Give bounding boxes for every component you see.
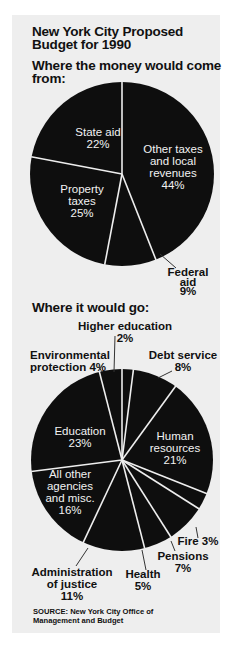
label-text: Fire 3% [176,535,220,547]
label-value: 44% [133,179,213,191]
source-line-2: Management and Budget [33,616,153,625]
label-state-aid: State aid 22% [63,126,133,150]
label-text: Health [122,568,164,580]
label-value: 22% [63,138,133,150]
label-text: Education [45,425,115,437]
source-line-1: SOURCE: New York City Office of [33,607,153,616]
label-text: and misc. [36,492,104,504]
label-text: Human [141,430,209,442]
label-text: State aid [63,126,133,138]
label-environmental-protection: Environmental protection 4% [30,349,116,373]
label-text: and local [133,155,213,167]
label-value: protection 4% [30,361,116,373]
label-all-other: All other agencies and misc. 16% [36,468,104,516]
spending-heading: Where it would go: [32,301,149,314]
label-value: 25% [52,207,112,219]
label-text: of justice [30,578,114,590]
source-note: SOURCE: New York City Office of Manageme… [33,607,153,625]
label-property-taxes: Property taxes 25% [52,183,112,219]
label-administration-of-justice: Administration of justice 11% [30,566,114,602]
label-debt-service: Debt service 8% [147,349,219,373]
label-text: All other [36,468,104,480]
chart-title: New York City Proposed Budget for 1990 [32,25,183,51]
label-text: taxes [52,195,112,207]
label-value: 11% [30,590,114,602]
label-text: Higher education [70,320,180,332]
label-human-resources: Human resources 21% [141,430,209,466]
income-heading-line-2: from: [32,72,221,85]
title-line-2: Budget for 1990 [32,38,183,51]
label-text: Other taxes [133,143,213,155]
leader-line [76,548,88,566]
label-higher-education: Higher education 2% [70,320,180,344]
label-value: 16% [36,504,104,516]
label-text: Pensions [155,550,211,562]
label-value: 2% [70,332,180,344]
leader-line [142,550,146,570]
label-text: Environmental [30,349,116,361]
label-education: Education 23% [45,425,115,449]
label-value: 8% [147,361,219,373]
label-fire: Fire 3% [176,535,220,547]
label-text: agencies [36,480,104,492]
label-text: Administration [30,566,114,578]
label-value: 9% [166,285,210,297]
label-text: revenues [133,167,213,179]
label-text: Debt service [147,349,219,361]
label-value: 23% [45,437,115,449]
label-value: 5% [122,580,164,592]
label-value: 21% [141,454,209,466]
label-federal-aid: Federal aid 9% [166,266,210,297]
label-other-taxes: Other taxes and local revenues 44% [133,143,213,191]
label-health: Health 5% [122,568,164,592]
income-heading: Where the money would come from: [32,59,221,85]
label-text: Property [52,183,112,195]
label-text: resources [141,442,209,454]
